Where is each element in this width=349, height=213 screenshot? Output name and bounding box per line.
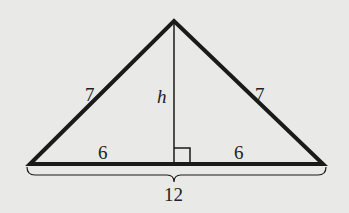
right-angle-marker [174, 148, 190, 164]
triangle [30, 21, 323, 164]
label-left-base-half: 6 [98, 142, 108, 163]
label-height: h [157, 86, 167, 107]
label-right-side: 7 [255, 84, 265, 105]
label-left-side: 7 [85, 84, 95, 105]
base-brace [27, 167, 326, 182]
triangle-diagram: 7 7 h 6 6 12 [0, 0, 349, 213]
label-right-base-half: 6 [234, 142, 244, 163]
label-base-total: 12 [164, 184, 183, 205]
